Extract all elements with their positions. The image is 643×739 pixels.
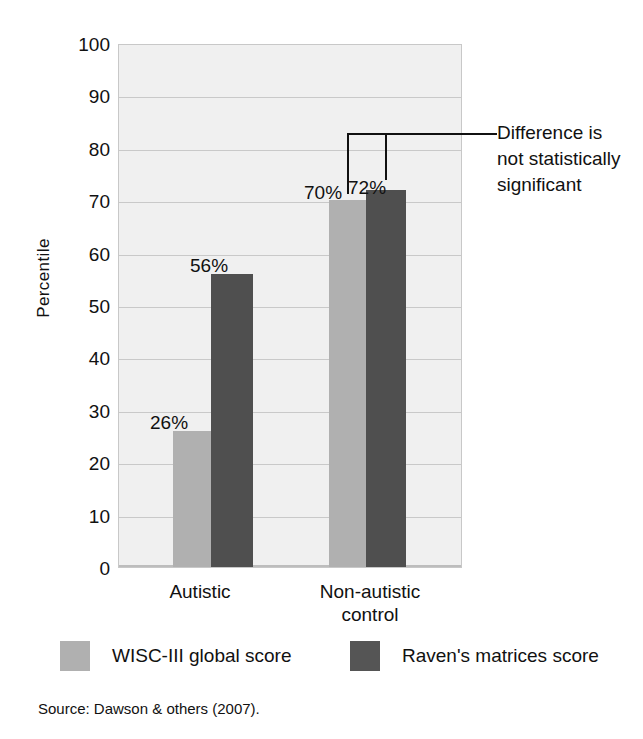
legend-swatch-raven-icon	[350, 641, 380, 671]
legend-item-wisc: WISC-III global score	[60, 641, 292, 671]
annotation-line-1: Difference is	[497, 120, 643, 146]
source-note: Source: Dawson & others (2007).	[38, 700, 260, 718]
annotation-text: Difference is not statistically signific…	[497, 120, 643, 198]
x-category-control-line2: control	[296, 603, 444, 626]
gridline-70	[119, 202, 461, 203]
gridline-50	[119, 307, 461, 308]
x-category-control-line1: Non-autistic	[296, 580, 444, 603]
gridline-40	[119, 359, 461, 360]
legend-item-raven: Raven's matrices score	[350, 641, 599, 671]
y-axis-title: Percentile	[34, 218, 54, 338]
y-axis-tick-labels: 100 90 80 70 60 50 40 30 20 10 0	[58, 44, 110, 568]
x-axis-baseline	[119, 565, 461, 567]
annotation-line-3: significant	[497, 172, 643, 198]
bar-autistic-wisc	[173, 431, 211, 567]
bar-chart-figure: Percentile 100 90 80 70 60 50 40 30 20 1…	[0, 0, 643, 739]
bar-value-control-raven: 72%	[348, 178, 386, 197]
bar-autistic-raven	[211, 274, 253, 567]
gridline-90	[119, 97, 461, 98]
chart-legend: WISC-III global score Raven's matrices s…	[60, 641, 620, 687]
y-tick-40: 40	[64, 349, 110, 368]
legend-label-wisc: WISC-III global score	[112, 645, 292, 667]
bar-control-wisc	[329, 200, 366, 567]
y-tick-10: 10	[64, 506, 110, 525]
gridline-20	[119, 464, 461, 465]
bar-value-autistic-raven: 56%	[190, 256, 228, 275]
y-tick-50: 50	[64, 297, 110, 316]
y-tick-70: 70	[64, 192, 110, 211]
plot-area	[118, 44, 462, 568]
x-category-autistic-line1: Autistic	[140, 580, 260, 603]
gridline-80	[119, 150, 461, 151]
gridline-60	[119, 255, 461, 256]
y-tick-100: 100	[64, 35, 110, 54]
y-tick-60: 60	[64, 244, 110, 263]
bar-value-autistic-wisc: 26%	[150, 413, 188, 432]
legend-label-raven: Raven's matrices score	[402, 645, 599, 667]
annotation-line-2: not statistically	[497, 146, 643, 172]
legend-swatch-wisc-icon	[60, 641, 90, 671]
bar-control-raven	[366, 190, 406, 567]
y-tick-30: 30	[64, 401, 110, 420]
y-tick-90: 90	[64, 87, 110, 106]
y-tick-80: 80	[64, 139, 110, 158]
bar-value-control-wisc: 70%	[304, 183, 342, 202]
y-tick-0: 0	[64, 559, 110, 578]
x-category-control: Non-autistic control	[296, 580, 444, 626]
x-category-autistic: Autistic	[140, 580, 260, 603]
gridline-10	[119, 517, 461, 518]
y-tick-20: 20	[64, 454, 110, 473]
